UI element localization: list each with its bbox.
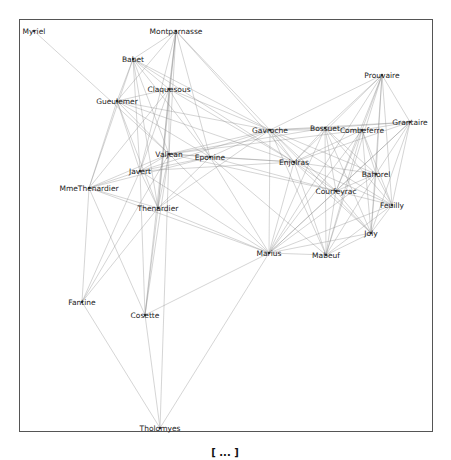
node-label: MmeThenardier	[59, 184, 119, 193]
graph-edge	[392, 122, 410, 205]
graph-nodes: MyrielMontparnasseBabetClaquesousGueulem…	[23, 27, 428, 433]
graph-edge	[89, 101, 117, 188]
graph-edge	[89, 188, 269, 253]
graph-edge	[82, 154, 169, 302]
node-label: Grantaire	[392, 118, 428, 127]
node-label: Javert	[128, 167, 151, 176]
node-label: Claquesous	[147, 85, 190, 94]
node-label: Babet	[122, 55, 144, 64]
node-label: Montparnasse	[150, 27, 203, 36]
node-label: Courfeyrac	[315, 187, 356, 196]
graph-edge	[82, 208, 158, 302]
graph-edge	[145, 154, 169, 315]
node-label: Combeferre	[340, 126, 385, 135]
graph-edge	[325, 128, 336, 191]
graph-edge	[210, 157, 269, 253]
graph-edge	[82, 188, 89, 302]
graph-edge	[117, 101, 140, 171]
graph-edge	[160, 253, 269, 428]
graph-edge	[133, 59, 270, 130]
node-label: Mabeuf	[312, 251, 340, 260]
graph-edge	[160, 154, 169, 428]
graph-edge	[89, 188, 145, 315]
graph-edge	[294, 162, 326, 255]
node-label: Joly	[363, 229, 378, 238]
graph-edge	[269, 130, 270, 253]
node-label: Fantine	[68, 298, 96, 307]
graph-edge	[89, 59, 133, 188]
node-label: Bossuet	[310, 124, 340, 133]
graph-edge	[158, 208, 269, 253]
graph-edge	[158, 157, 210, 208]
graph-edges	[34, 31, 410, 428]
graph-edge	[325, 128, 376, 174]
node-label: Bahorel	[362, 170, 391, 179]
graph-edge	[326, 191, 336, 255]
graph-edge	[169, 89, 210, 157]
graph-edge	[294, 162, 371, 233]
graph-edge	[140, 171, 145, 315]
node-label: Myriel	[23, 27, 46, 36]
graph-edge	[133, 59, 140, 171]
node-label: Gueulemer	[96, 97, 139, 106]
node-label: Marius	[257, 249, 282, 258]
node-label: Prouvaire	[364, 71, 400, 80]
graph-edge	[294, 75, 382, 162]
graph-edge	[133, 59, 158, 208]
graph-edge	[336, 191, 371, 233]
figure-caption: [ ... ]	[200, 448, 250, 460]
graph-edge	[117, 101, 270, 130]
graph-edge	[145, 315, 160, 428]
graph-edge	[82, 302, 160, 428]
graph-edge	[326, 205, 392, 255]
graph-edge	[362, 130, 371, 233]
node-label: Feuilly	[380, 201, 405, 210]
node-label: Gavroche	[252, 126, 288, 135]
node-label: Cosette	[131, 311, 160, 320]
graph-edge	[145, 253, 269, 315]
node-label: Eponine	[195, 153, 226, 162]
graph-edge	[210, 157, 326, 255]
node-label: Enjolras	[279, 158, 309, 167]
node-label: Tholomyes	[139, 424, 181, 433]
graph-edge	[145, 208, 158, 315]
graph-edge	[176, 31, 270, 130]
graph-edge	[382, 75, 410, 122]
node-label: Valjean	[155, 150, 183, 159]
graph-edge	[140, 89, 169, 171]
node-label: Thenardier	[137, 204, 180, 213]
graph-edge	[117, 101, 158, 208]
